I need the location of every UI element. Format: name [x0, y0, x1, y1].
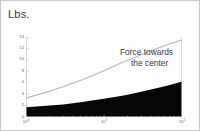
x-tick-label: 101 — [101, 119, 108, 124]
annotation-line-2: the center — [120, 58, 173, 69]
chart-annotation: Force towards the center — [120, 47, 173, 68]
x-tick-label: 102 — [179, 119, 186, 124]
filled-area-series — [26, 82, 182, 117]
figure-container: Lbs. 02468101214 100101102 Force towards… — [0, 0, 200, 131]
annotation-line-1: Force towards — [120, 47, 173, 57]
x-tick-label: 100 — [23, 119, 30, 124]
